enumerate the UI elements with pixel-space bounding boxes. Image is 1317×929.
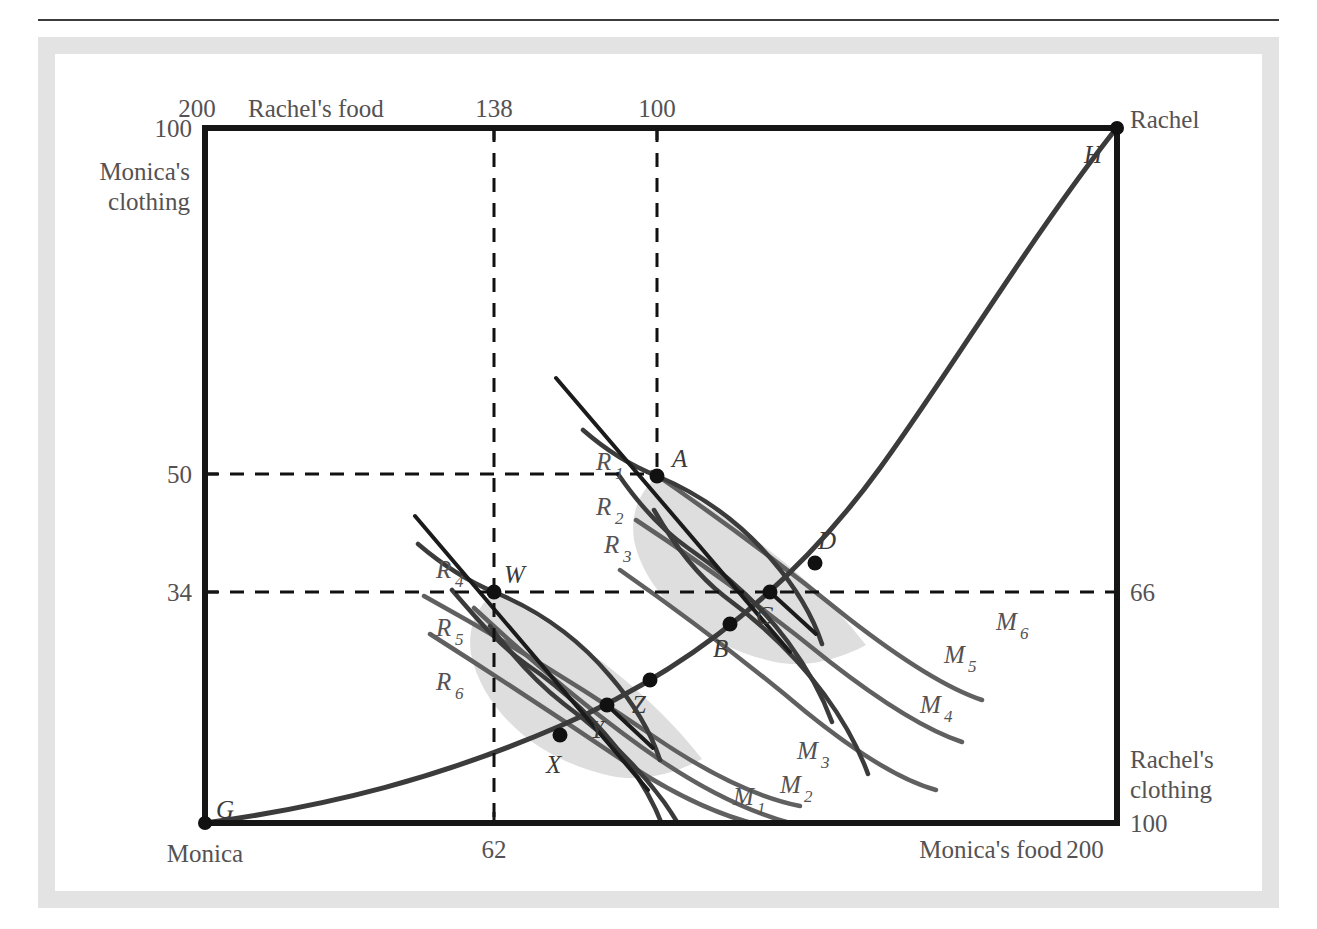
curve-label-M4-base: M [919, 691, 942, 718]
curve-label-R3-sub: 3 [622, 547, 632, 566]
axis-label-monicas-food: Monica's food [919, 836, 1062, 863]
curve-label-M3-sub: 3 [820, 753, 830, 772]
curve-label-M4: M 4 [919, 691, 953, 726]
curve-label-M5: M 5 [943, 641, 977, 676]
axis-label-monicas-clothing-line2: clothing [108, 188, 190, 215]
point-label-D: D [817, 527, 836, 554]
curve-label-M6-base: M [995, 608, 1018, 635]
curve-label-M2-base: M [779, 771, 802, 798]
tick-label-left-34: 34 [167, 579, 193, 606]
point-dot-Z[interactable] [643, 673, 658, 688]
axis-label-monicas-clothing-line1: Monica's [99, 158, 190, 185]
lens-region-upper [633, 476, 866, 664]
curve-label-R5-base: R [435, 614, 451, 641]
curve-label-M2-sub: 2 [804, 787, 813, 806]
tick-label-bottom-62: 62 [482, 836, 507, 863]
price-line-through-A [556, 378, 790, 652]
axis-label-rachels-food: Rachel's food [248, 95, 384, 122]
curve-label-M4-sub: 4 [944, 707, 953, 726]
point-dot-W[interactable] [487, 585, 502, 600]
curve-label-R2-base: R [595, 493, 611, 520]
tick-label-right-66: 66 [1130, 579, 1155, 606]
tick-label-right-100: 100 [1130, 810, 1168, 837]
point-label-W: W [504, 561, 527, 588]
point-dot-Y[interactable] [600, 698, 615, 713]
curve-label-R1-base: R [595, 448, 611, 475]
curve-label-M1-sub: 1 [757, 799, 766, 818]
tick-label-top-100: 100 [638, 95, 676, 122]
point-label-X: X [545, 751, 563, 778]
origin-label-monica: Monica [167, 840, 243, 867]
point-dot-A[interactable] [650, 469, 665, 484]
curve-label-M5-sub: 5 [968, 657, 977, 676]
curve-label-R4-sub: 4 [455, 572, 464, 591]
point-dot-G[interactable] [198, 816, 212, 830]
curve-label-R6: R 6 [435, 668, 464, 703]
curve-label-R2-sub: 2 [615, 509, 624, 528]
axis-label-rachels-clothing-line2: clothing [1130, 776, 1212, 803]
origin-label-rachel: Rachel [1130, 106, 1199, 133]
curve-label-M6-sub: 6 [1020, 624, 1029, 643]
tick-label-top-138: 138 [475, 95, 513, 122]
point-dot-H[interactable] [1110, 121, 1124, 135]
curve-label-M1: M 1 [732, 783, 766, 818]
point-label-C: C [756, 602, 773, 629]
tick-label-left-50: 50 [167, 461, 192, 488]
curve-label-R4-base: R [435, 556, 451, 583]
point-label-B: B [713, 635, 728, 662]
point-label-H: H [1083, 141, 1104, 168]
curve-label-M1-base: M [732, 783, 755, 810]
point-dot-X[interactable] [553, 728, 568, 743]
point-dot-B[interactable] [723, 617, 738, 632]
curve-label-R6-base: R [435, 668, 451, 695]
curve-label-R6-sub: 6 [455, 684, 464, 703]
curve-label-M3: M 3 [796, 737, 830, 772]
curve-label-R4: R 4 [435, 556, 464, 591]
point-dot-D[interactable] [808, 556, 823, 571]
edgeworth-box-diagram: G H A B C D W X Y Z R 1 R 2 R 3 [0, 0, 1317, 929]
point-dot-C[interactable] [763, 585, 778, 600]
curve-label-M3-base: M [796, 737, 819, 764]
figure-page: G H A B C D W X Y Z R 1 R 2 R 3 [0, 0, 1317, 929]
curve-label-R5-sub: 5 [455, 630, 464, 649]
curve-label-R3-base: R [603, 531, 619, 558]
curve-label-R1-sub: 1 [615, 464, 624, 483]
curve-label-R2: R 2 [595, 493, 624, 528]
point-label-G: G [216, 796, 234, 823]
tick-label-bottom-right-200: 200 [1066, 836, 1104, 863]
curve-label-M5-base: M [943, 641, 966, 668]
axis-label-rachels-clothing-line1: Rachel's [1130, 746, 1214, 773]
curve-label-M6: M 6 [995, 608, 1029, 643]
tick-label-left-100: 100 [155, 115, 193, 142]
point-label-A: A [670, 445, 688, 472]
curve-label-R3: R 3 [603, 531, 632, 566]
point-label-Z: Z [632, 691, 647, 718]
